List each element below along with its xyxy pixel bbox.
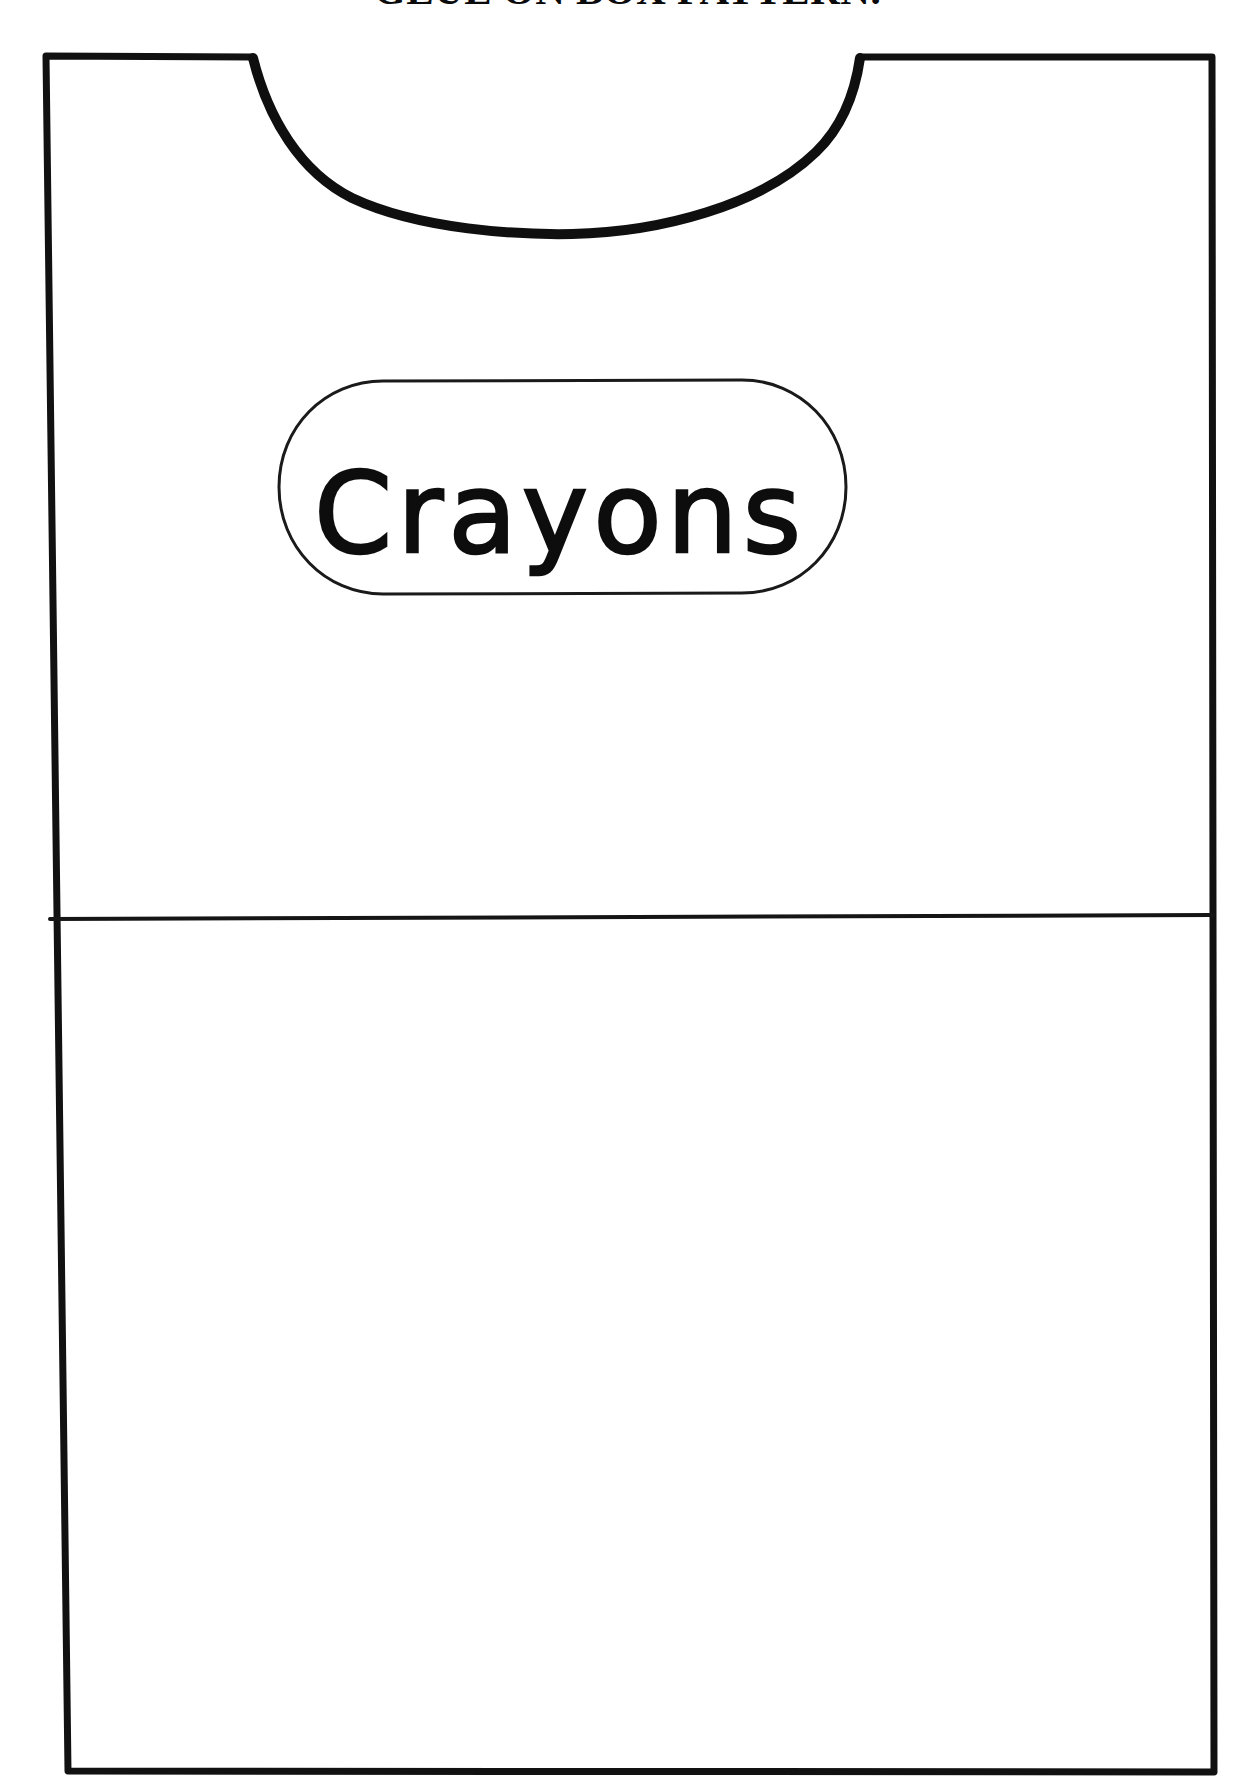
pattern-page: GLUE ON BOX PATTERN. Crayons — [0, 0, 1255, 1792]
crayons-label-text: Crayons — [300, 440, 820, 585]
pattern-artwork — [0, 0, 1255, 1792]
